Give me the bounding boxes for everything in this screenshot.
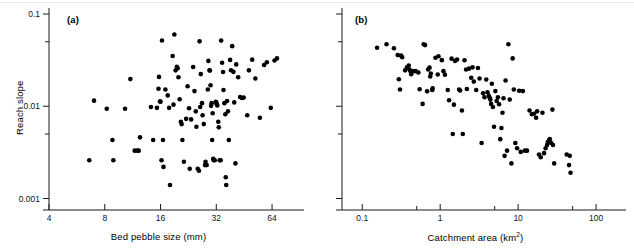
data-point [170, 54, 175, 59]
data-point [226, 109, 231, 114]
x-tick-label: 1 [438, 213, 443, 223]
data-point [460, 108, 465, 113]
data-point [200, 113, 205, 118]
data-point [234, 62, 239, 67]
data-point [275, 56, 280, 61]
data-point [400, 55, 405, 60]
data-point [447, 98, 452, 103]
data-point [450, 132, 455, 137]
data-point [204, 163, 209, 168]
data-point [499, 126, 504, 131]
axis-lines [43, 8, 304, 210]
x-tick-label: 4 [47, 213, 52, 223]
y-tick-label: 0.001 [19, 194, 41, 204]
data-point [241, 95, 246, 100]
data-point [534, 115, 539, 120]
data-point [233, 161, 238, 166]
data-point [551, 143, 556, 148]
panel-a-tag: (a) [67, 14, 79, 25]
data-point [550, 107, 555, 112]
data-point [111, 158, 116, 163]
scatter-plot-b: 0.1110100 [317, 0, 634, 251]
data-point [497, 102, 502, 107]
data-point [198, 105, 203, 110]
data-point [417, 87, 422, 92]
data-point [104, 106, 109, 111]
data-point [436, 54, 441, 59]
data-point [216, 125, 221, 130]
data-point [427, 65, 432, 70]
data-point [479, 141, 484, 146]
data-point [215, 103, 220, 108]
data-point [429, 71, 434, 76]
data-point [503, 78, 508, 83]
data-point [469, 75, 474, 80]
data-point [500, 110, 505, 115]
data-point [521, 89, 526, 94]
data-point [216, 119, 221, 124]
data-point [184, 117, 189, 122]
data-point [420, 102, 425, 107]
panel-b-xaxis-title: Catchment area (km2) [317, 231, 634, 243]
data-point [482, 95, 487, 100]
data-point [258, 115, 263, 120]
figure-container: 0.0010.010.148163264 (a) Bed pebble size… [0, 0, 634, 251]
data-point [502, 154, 507, 159]
x-tick-label: 100 [589, 213, 603, 223]
data-point [245, 113, 250, 118]
data-point [455, 57, 460, 62]
data-point [512, 87, 517, 92]
data-point [430, 86, 435, 91]
data-point [175, 66, 180, 71]
data-point [440, 58, 445, 63]
panel-b-xaxis-title-tail: ) [520, 232, 523, 243]
x-tick-label: 8 [102, 213, 107, 223]
data-point [397, 77, 402, 82]
x-axis-ticks: 0.1110100 [356, 204, 603, 223]
data-point [462, 58, 467, 63]
data-point [525, 148, 530, 153]
data-points [87, 32, 279, 187]
data-point [540, 110, 545, 115]
data-point [163, 87, 168, 92]
data-point [443, 72, 448, 77]
data-point [151, 138, 156, 143]
data-point [187, 106, 192, 111]
data-point [123, 106, 128, 111]
data-point [535, 109, 540, 114]
data-point [192, 89, 197, 94]
data-point [507, 97, 512, 102]
data-point [157, 75, 162, 80]
data-point [425, 89, 430, 94]
data-point [155, 106, 160, 111]
data-point [435, 72, 440, 77]
y-tick-label: 0.01 [23, 101, 40, 111]
data-point [110, 138, 115, 143]
data-point [172, 32, 177, 37]
data-point [498, 137, 503, 142]
panel-b-tag: (b) [355, 14, 368, 25]
data-point [210, 138, 215, 143]
x-tick-label: 64 [267, 213, 277, 223]
data-point [161, 138, 166, 143]
panel-a: 0.0010.010.148163264 (a) Bed pebble size… [0, 0, 317, 251]
data-point [194, 124, 199, 129]
data-point [416, 70, 421, 75]
data-point [265, 60, 270, 65]
data-point [542, 151, 547, 156]
data-point [223, 175, 228, 180]
data-point [221, 70, 226, 75]
data-point [180, 138, 185, 143]
data-point [470, 65, 475, 70]
data-point [185, 84, 190, 89]
data-point [477, 76, 482, 81]
data-point [227, 138, 232, 143]
data-point [230, 44, 235, 49]
data-point [515, 146, 520, 151]
data-point [182, 159, 187, 164]
x-axis-ticks: 48163264 [47, 204, 277, 223]
data-point [231, 70, 236, 75]
data-point [474, 88, 479, 93]
data-point [159, 158, 164, 163]
data-point [510, 56, 515, 61]
